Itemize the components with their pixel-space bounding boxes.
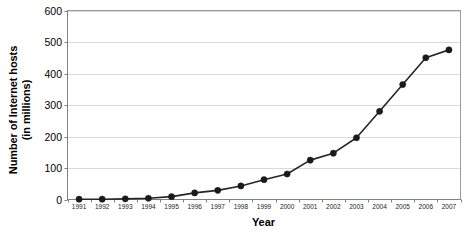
x-tick-label: 2007 bbox=[432, 203, 466, 210]
internet-hosts-line-chart: Number of Internet hosts (in millions) 0… bbox=[0, 0, 470, 239]
x-axis-title: Year bbox=[67, 216, 460, 228]
x-axis-tick-labels: 1991199219931994199519961997199819992000… bbox=[0, 0, 470, 239]
